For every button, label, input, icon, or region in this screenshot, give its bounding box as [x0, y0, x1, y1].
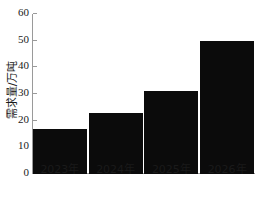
bars-layer	[32, 14, 255, 174]
bar	[144, 91, 198, 174]
bar-chart: 需求量/万吨 0102030405060 2023年2024年2025年2026…	[0, 0, 269, 198]
y-tick-label: 40	[18, 59, 29, 72]
bar	[200, 41, 254, 174]
y-tick-label: 60	[18, 6, 29, 19]
x-tick-label: 2024年	[88, 163, 144, 177]
y-tick-label: 50	[18, 33, 29, 46]
x-tick-label: 2023年	[32, 163, 88, 177]
x-tick-label: 2025年	[144, 163, 200, 177]
y-tick-label: 10	[18, 139, 29, 152]
y-tick-label: 0	[24, 166, 30, 179]
y-axis-title-text: 需求量/万吨	[3, 61, 19, 120]
y-tick-label: 30	[18, 86, 29, 99]
x-tick-label: 2026年	[199, 163, 255, 177]
plot-area: 0102030405060	[32, 14, 255, 174]
y-tick-label: 20	[18, 113, 29, 126]
